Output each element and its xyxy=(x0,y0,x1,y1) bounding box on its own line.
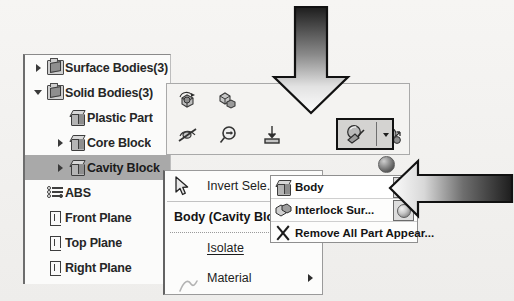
tree-item-abs[interactable]: ABS xyxy=(25,180,170,205)
submenu-item-label: Body xyxy=(295,181,324,193)
folder-surface-icon xyxy=(47,60,64,75)
appearances-icon-button[interactable] xyxy=(336,118,394,150)
chevron-right-icon xyxy=(308,274,313,282)
plane-icon xyxy=(48,260,62,275)
rotate-body-icon[interactable] xyxy=(175,88,201,114)
tree-item-cavity-block[interactable]: Cavity Block xyxy=(25,155,170,180)
ink-squiggle-mark xyxy=(178,276,212,294)
tree-item-label: Top Plane xyxy=(65,236,122,250)
tree-item-label: Plastic Part xyxy=(87,111,153,125)
context-toolbar-row-1 xyxy=(175,88,241,114)
tree-item-surface-bodies-3[interactable]: Surface Bodies(3) xyxy=(25,55,170,80)
menu-item-label: Invert Sele... xyxy=(199,179,277,193)
tree-item-front-plane[interactable]: Front Plane xyxy=(25,205,170,230)
surface-body-icon xyxy=(271,202,295,218)
remove-x-icon xyxy=(271,225,295,241)
tree-expander[interactable] xyxy=(31,90,45,95)
submenu-item-label: Remove All Part Appear... xyxy=(295,227,434,239)
dropdown-divider xyxy=(376,122,377,146)
plane-icon xyxy=(48,210,62,225)
tree-item-label: Core Block xyxy=(87,136,151,150)
tree-item-label: ABS xyxy=(65,186,91,200)
tree-expander[interactable] xyxy=(31,64,45,72)
hide-body-icon[interactable] xyxy=(175,122,201,148)
solid-body-icon xyxy=(70,110,85,125)
tree-item-label: Front Plane xyxy=(65,211,132,225)
insert-into-new-part-icon[interactable] xyxy=(259,122,285,148)
material-icon xyxy=(47,185,64,200)
callout-arrow-down xyxy=(268,5,354,117)
chevron-down-icon[interactable] xyxy=(383,133,389,137)
tree-expander[interactable] xyxy=(53,139,67,147)
plane-icon xyxy=(48,235,62,250)
tree-item-label: Surface Bodies(3) xyxy=(65,61,168,75)
chevron-down-icon xyxy=(34,90,42,95)
appearances-icon[interactable] xyxy=(343,121,369,147)
solid-body-icon xyxy=(271,180,295,195)
chevron-right-icon xyxy=(58,164,63,172)
tree-item-label: Right Plane xyxy=(65,261,132,275)
folder-solid-icon xyxy=(47,85,64,100)
zoom-to-selection-icon[interactable] xyxy=(217,122,243,148)
solid-body-icon xyxy=(70,135,85,150)
tree-item-plastic-part[interactable]: Plastic Part xyxy=(25,105,170,130)
move-copy-body-icon[interactable] xyxy=(215,88,241,114)
tree-expander[interactable] xyxy=(53,164,67,172)
tree-item-core-block[interactable]: Core Block xyxy=(25,130,170,155)
submenu-item-remove-all-part-appearances[interactable]: Remove All Part Appear... xyxy=(271,222,417,244)
chevron-right-icon xyxy=(36,64,41,72)
menu-item-label: Isolate xyxy=(199,241,244,255)
tree-item-solid-bodies-3[interactable]: Solid Bodies(3) xyxy=(25,80,170,105)
cursor-arrow-icon xyxy=(165,176,199,196)
tree-item-right-plane[interactable]: Right Plane xyxy=(25,255,170,280)
tree-item-label: Cavity Block xyxy=(87,161,160,175)
feature-manager-tree[interactable]: Surface Bodies(3)Solid Bodies(3)Plastic … xyxy=(23,54,171,284)
tree-item-label: Solid Bodies(3) xyxy=(65,86,153,100)
tree-item-top-plane[interactable]: Top Plane xyxy=(25,230,170,255)
screenshot-canvas: Surface Bodies(3)Solid Bodies(3)Plastic … xyxy=(0,0,514,301)
chevron-right-icon xyxy=(58,139,63,147)
callout-arrow-left xyxy=(388,158,514,220)
menu-header-label: Body (Cavity Blo... xyxy=(165,210,284,224)
solid-body-icon xyxy=(70,160,85,175)
submenu-item-label: Interlock Sur... xyxy=(295,204,374,216)
